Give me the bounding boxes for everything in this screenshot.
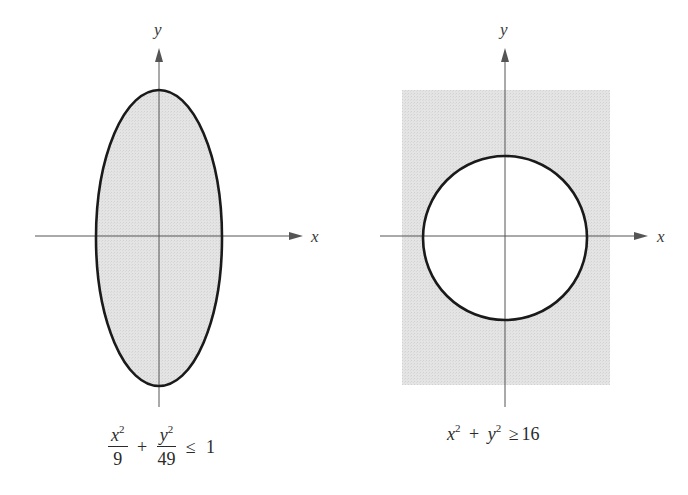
var-x: x xyxy=(447,424,455,444)
rhs-value: 1 xyxy=(206,437,215,458)
fraction-x2-over-9: x2 9 xyxy=(108,425,128,469)
plus-sign: + xyxy=(137,437,147,458)
left-y-axis-arrow-icon xyxy=(155,48,163,62)
right-graph: x y xyxy=(380,20,665,407)
right-inequality-formula: x2 + y2 ≥16 xyxy=(447,424,540,445)
var-y: y xyxy=(488,424,496,444)
exponent: 2 xyxy=(119,423,125,435)
fraction-y2-over-49: y2 49 xyxy=(157,425,177,469)
inequality-graphs-figure: x y x y x2 9 + y2 49 ≤ 1 x2 xyxy=(0,0,688,495)
graphs-canvas: x y x y xyxy=(0,0,688,495)
relation-sign: ≥ xyxy=(509,424,519,444)
exponent: 2 xyxy=(496,422,502,434)
right-x-axis-arrow-icon xyxy=(634,232,648,240)
left-x-axis-label: x xyxy=(310,227,319,246)
left-y-axis-label: y xyxy=(152,20,162,39)
denominator: 9 xyxy=(108,447,128,469)
left-x-axis-arrow-icon xyxy=(289,232,303,240)
rhs-value: 16 xyxy=(522,424,540,444)
exponent: 2 xyxy=(168,423,174,435)
numerator-var: x xyxy=(111,425,119,445)
numerator-var: y xyxy=(160,425,168,445)
exponent: 2 xyxy=(455,422,461,434)
plus-sign: + xyxy=(469,424,479,444)
right-x-axis-label: x xyxy=(656,227,665,246)
relation-sign: ≤ xyxy=(186,437,196,458)
left-inequality-formula: x2 9 + y2 49 ≤ 1 xyxy=(106,425,218,469)
right-y-axis-arrow-icon xyxy=(501,48,509,62)
denominator: 49 xyxy=(157,447,177,469)
right-y-axis-label: y xyxy=(498,20,508,39)
left-graph: x y xyxy=(35,20,319,407)
